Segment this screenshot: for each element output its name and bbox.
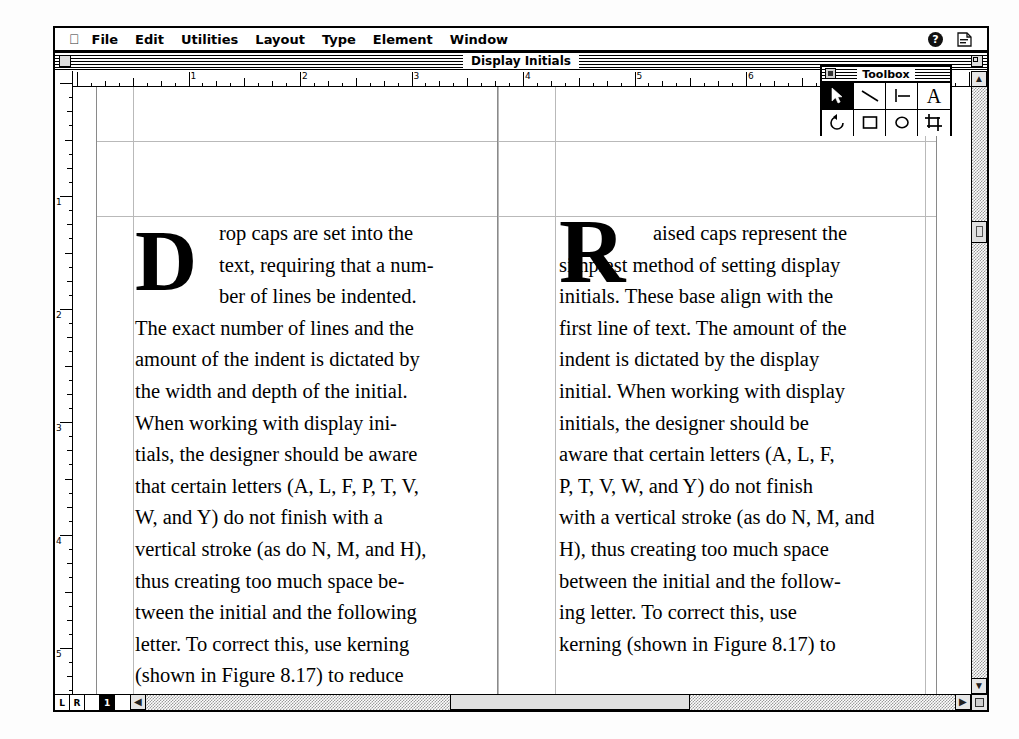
ruler-tick [593,83,594,86]
ruler-tick [189,72,190,86]
ruler-tick [65,366,72,367]
ruler-tick [105,81,106,86]
pointer-tool[interactable] [822,83,854,110]
text-line: with a vertical stroke (as do N, M, and [559,502,931,534]
ruler-tick [467,78,468,86]
ruler-tick [356,78,357,86]
ruler-tick [802,78,803,86]
help-icon[interactable]: ? [928,32,943,47]
text-line: vertical stroke (as do N, M, and H), [135,534,495,566]
text-tool[interactable]: A [918,83,950,110]
rectangle-tool[interactable] [854,110,886,137]
ruler-label: 5 [637,71,643,81]
ruler-tick [314,83,315,86]
menu-edit[interactable]: Edit [135,32,164,47]
ruler-guide-baseline [97,216,936,217]
ellipse-tool[interactable] [886,110,918,137]
vertical-scrollbar[interactable]: ▲ ▼ [971,71,987,694]
scroll-up-button[interactable]: ▲ [971,71,987,87]
scroll-down-button[interactable]: ▼ [971,678,987,694]
ruler-tick [69,690,72,691]
ruler-tick [69,323,72,324]
text-line: that certain letters (A, L, F, P, T, V, [135,471,495,503]
ruler-tick [495,81,496,86]
ruler-tick [746,72,747,86]
ruler-tick [579,78,580,86]
ruler-tick [328,81,329,86]
ruler-tick [69,97,72,98]
vertical-ruler[interactable]: 123456 [55,71,73,694]
menu-layout[interactable]: Layout [255,32,305,47]
ruler-tick [67,563,72,564]
diagonal-line-tool[interactable] [854,83,886,110]
horizontal-scroll-thumb[interactable] [450,694,690,710]
ruler-tick [69,408,72,409]
ruler-tick [147,83,148,86]
ruler-tick [509,83,510,86]
text-line: text, requiring that a num- [135,250,495,282]
text-line: W, and Y) do not finish with a [135,502,495,534]
right-arrow-icon: ▶ [959,697,967,707]
toolbox-close-box[interactable] [825,68,836,79]
ruler-label: 5 [56,649,62,659]
toolbox-title-bar[interactable]: Toolbox [822,66,950,83]
rotate-tool[interactable] [822,110,854,137]
ruler-label: 1 [56,197,62,207]
toolbox-title: Toolbox [857,68,914,81]
cropping-tool[interactable] [918,110,950,137]
down-arrow-icon: ▼ [974,681,984,691]
ruler-tick [69,295,72,296]
toolbox-palette[interactable]: Toolbox A [820,64,952,136]
text-line: ing letter. To correct this, use [559,597,931,629]
master-page-left[interactable]: L [55,695,70,710]
ruler-tick [384,81,385,86]
ruler-tick [732,83,733,86]
ruler-tick [69,634,72,635]
left-text-block[interactable]: rop caps are set into thetext, requiring… [135,218,495,694]
ruler-tick [718,81,719,86]
master-page-right[interactable]: R [70,695,85,710]
ruler-tick [60,83,72,84]
menu-type[interactable]: Type [322,32,356,47]
text-line: aware that certain letters (A, L, F, [559,439,931,471]
resize-grip[interactable] [971,694,987,710]
page-icon-1[interactable]: 1 [100,695,115,710]
text-line: thus creating too much space be- [135,566,495,598]
scroll-left-button[interactable]: ◀ [130,694,146,710]
menu-element[interactable]: Element [373,32,433,47]
ruler-tick [69,606,72,607]
application-menu-icon[interactable] [957,32,973,47]
constrained-line-tool[interactable] [886,83,918,110]
ruler-tick [69,662,72,663]
horizontal-scrollbar[interactable]: ◀ ▶ [130,694,971,710]
ruler-label: 2 [56,310,62,320]
apple-icon[interactable]:  [69,32,80,46]
ruler-label: 6 [748,71,754,81]
menu-file[interactable]: File [92,32,119,47]
right-text-block[interactable]: aised caps represent thesimplest method … [559,218,931,660]
menu-bar:  File Edit Utilities Layout Type Elemen… [55,28,987,52]
text-line: initial. When working with display [559,376,931,408]
ruler-tick [439,81,440,86]
ruler-tick [67,620,72,621]
document-canvas[interactable]: D rop caps are set into thetext, requiri… [73,87,971,694]
menu-window[interactable]: Window [450,32,508,47]
ruler-tick [67,224,72,225]
close-box[interactable] [59,55,71,67]
ruler-tick [133,78,134,86]
zoom-box[interactable] [971,55,983,67]
page-bar-spacer-left [85,695,100,710]
ruler-label: 3 [56,423,62,433]
ruler-tick [300,72,301,86]
ruler-tick [272,81,273,86]
ruler-tick [704,83,705,86]
ruler-tick [635,72,636,86]
margin-guide-left [133,87,134,694]
ruler-tick [230,83,231,86]
vertical-scroll-thumb[interactable] [971,221,987,243]
page-gutter-edge [497,87,498,694]
ruler-tick [69,521,72,522]
menu-utilities[interactable]: Utilities [181,32,238,47]
scroll-right-button[interactable]: ▶ [955,694,971,710]
ruler-tick [67,507,72,508]
